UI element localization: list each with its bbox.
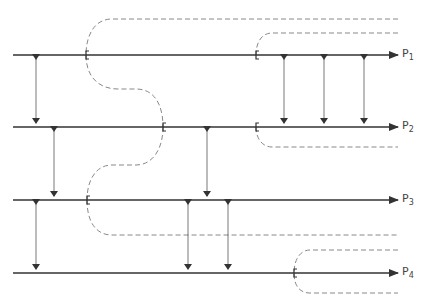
dashed-loop-p1-upper — [256, 33, 398, 55]
label-sub: 1 — [409, 53, 414, 62]
dashed-boundaries — [86, 19, 398, 293]
label-main: P — [402, 119, 409, 132]
dashed-path-top — [86, 19, 398, 127]
label-sub: 2 — [409, 125, 414, 134]
double-arrows — [36, 59, 364, 269]
dashed-loop-p4 — [294, 250, 398, 293]
dashed-path-p2-p3 — [87, 127, 163, 200]
label-main: P — [402, 265, 409, 278]
label-p3: P3 — [402, 192, 414, 207]
label-sub: 4 — [409, 271, 414, 280]
propagation-paths-diagram — [0, 0, 428, 306]
label-sub: 3 — [409, 198, 414, 207]
label-p4: P4 — [402, 265, 414, 280]
label-main: P — [402, 192, 409, 205]
label-p1: P1 — [402, 47, 414, 62]
dashed-loop-p2-lower — [256, 127, 398, 147]
label-p2: P2 — [402, 119, 414, 134]
brackets — [86, 51, 297, 277]
dashed-path-p3-lower — [87, 200, 398, 235]
label-main: P — [402, 47, 409, 60]
solid-paths — [13, 55, 398, 273]
